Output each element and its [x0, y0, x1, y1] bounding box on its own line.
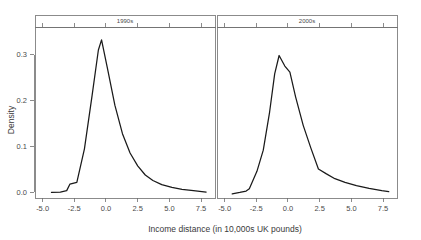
panel-frame — [217, 27, 397, 198]
x-tick-label: 2.5 — [132, 204, 142, 213]
x-tick-label: 5.0 — [346, 204, 356, 213]
y-tick-label: 0.1 — [17, 142, 27, 151]
x-tick-label: 5.0 — [164, 204, 174, 213]
x-tick-label: 7.5 — [378, 204, 388, 213]
y-axis-title: Density — [6, 105, 16, 134]
x-tick-label: 2.5 — [314, 204, 324, 213]
facet-panel-2000s: 2000s-5.0-2.50.02.55.07.5 — [217, 15, 397, 213]
y-tick-label: 0.3 — [17, 50, 27, 59]
y-tick-label: 0.0 — [17, 188, 27, 197]
panel-strip-label: 2000s — [299, 18, 315, 24]
y-axis-title-group: Density — [6, 105, 16, 134]
x-tick-label: -5.0 — [218, 204, 231, 213]
x-tick-label: 7.5 — [196, 204, 206, 213]
facet-panels: 1990s-5.0-2.50.02.55.07.52000s-5.0-2.50.… — [35, 15, 397, 213]
y-tick-label: 0.2 — [17, 96, 27, 105]
density-1990s — [51, 40, 206, 193]
x-tick-label: -2.5 — [250, 204, 263, 213]
x-axis-title-group: Income distance (in 10,000s UK pounds) — [148, 224, 302, 234]
x-tick-label: -2.5 — [68, 204, 81, 213]
panel-frame — [35, 27, 215, 198]
density-figure: Density Income distance (in 10,000s UK p… — [0, 0, 421, 240]
x-tick-label: 0.0 — [101, 204, 111, 213]
x-axis-title: Income distance (in 10,000s UK pounds) — [148, 224, 302, 234]
density-2000s — [232, 56, 389, 194]
x-tick-label: 0.0 — [283, 204, 293, 213]
facet-panel-1990s: 1990s-5.0-2.50.02.55.07.5 — [35, 15, 215, 213]
panel-strip-label: 1990s — [117, 18, 133, 24]
x-tick-label: -5.0 — [36, 204, 49, 213]
plot-canvas: Density Income distance (in 10,000s UK p… — [0, 0, 421, 240]
y-axis: 0.00.10.20.3 — [17, 50, 34, 197]
